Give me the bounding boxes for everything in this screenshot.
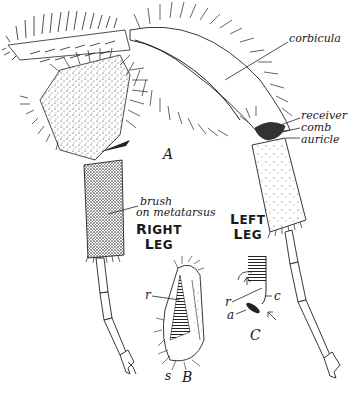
label-comb: comb [301,122,331,133]
bee-legs-illustration [0,0,354,396]
label-right-leg: RIGHT LEG [136,222,182,251]
left-tarsi [285,230,340,378]
label-left-leg: LEFT LEG [230,212,266,241]
panel-c-label-r: r [225,296,231,308]
panel-b-drawing [152,256,204,370]
panel-c-label-a: a [227,309,234,321]
right-tibia [20,48,148,160]
panel-b-label-s: s [165,370,171,382]
label-corbicula: corbicula [289,33,341,44]
panel-c-drawing [232,256,276,320]
panel-label-c: C [250,328,261,342]
label-auricle: auricle [301,134,340,145]
left-tibia-corbicula [120,2,292,136]
panel-b-label-r: r [145,289,151,301]
panel-label-b: B [182,370,192,384]
panel-label-a: A [163,147,173,161]
right-leg [2,11,148,374]
panel-c-label-c: c [274,290,281,302]
label-on-metatarsus: on metatarsus [136,207,216,218]
right-tarsi [96,258,136,374]
label-receiver: receiver [301,110,347,121]
